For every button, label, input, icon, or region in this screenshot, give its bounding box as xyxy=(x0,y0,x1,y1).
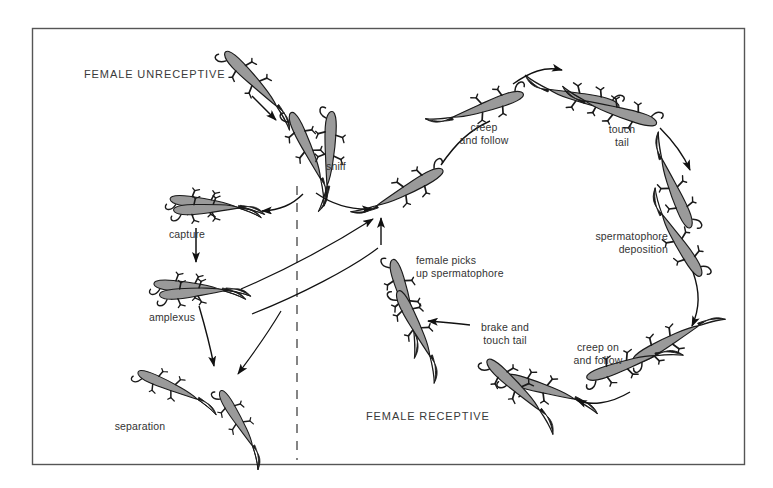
label-amplexus: amplexus xyxy=(128,311,216,324)
label-capture: capture xyxy=(148,228,226,241)
label-touch-tail: touch tail xyxy=(588,123,656,149)
label-brake-and-touch-tail: brake and touch tail xyxy=(462,321,548,347)
heading-female-unreceptive: FEMALE UNRECEPTIVE xyxy=(84,68,226,81)
label-creep-and-follow: creep and follow xyxy=(438,121,530,147)
label-sniff: sniff xyxy=(326,160,346,173)
diagram-canvas: FEMALE UNRECEPTIVE FEMALE RECEPTIVE snif… xyxy=(0,0,773,488)
label-spermatophore-deposition: spermatophore deposition xyxy=(556,230,668,256)
label-separation: separation xyxy=(94,420,186,433)
label-female-picks-up-spermatophore: female picks up spermatophore xyxy=(416,254,504,280)
label-creep-on-and-follow: creep on and follow xyxy=(556,341,640,367)
heading-female-receptive: FEMALE RECEPTIVE xyxy=(366,410,490,423)
